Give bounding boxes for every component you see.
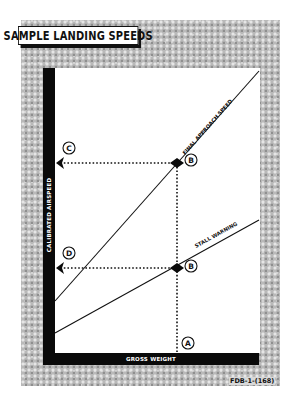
svg-text:C: C [66,144,72,153]
figure-id: FDB-1-(168) [229,377,275,385]
lower-intersection-marker-icon [170,263,184,273]
upper-intersection-marker-icon [170,158,184,168]
final-approach-speed-label: FINAL APPROACH SPEED [181,98,234,156]
diagram-overlay: FINAL APPROACH SPEED STALL WARNING A B B… [0,0,294,403]
marker-a: A [182,337,194,349]
stall-warning-line [55,220,259,333]
marker-b-lower: B [185,260,197,272]
marker-d: D [63,247,75,259]
svg-text:D: D [66,249,72,258]
arrow-left-icon [56,157,64,169]
svg-text:B: B [188,262,194,271]
arrow-left-icon [56,262,64,274]
marker-c: C [63,142,75,154]
marker-b-upper: B [185,154,197,166]
svg-text:B: B [188,156,194,165]
svg-text:A: A [185,339,191,348]
